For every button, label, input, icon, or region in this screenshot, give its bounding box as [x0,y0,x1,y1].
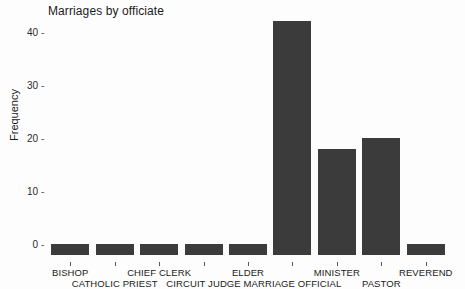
y-axis-tick-mark: - [41,79,45,90]
y-axis-tick-label: 40- [27,26,48,37]
x-axis-tick-mark [204,262,205,266]
x-axis-tick-label: BISHOP [52,267,89,278]
bar [407,244,445,255]
x-axis-tick-label: PASTOR [362,278,401,289]
y-axis-tick-label: 10- [27,185,48,196]
y-axis-tick-label: 30- [27,79,48,90]
x-axis-tick-label: MINISTER [314,267,360,278]
y-axis-tick-label: 20- [27,132,48,143]
y-axis-label: Frequency [8,125,20,141]
bar [185,244,223,255]
x-axis-tick-label: ELDER [232,267,264,278]
bar [51,244,89,255]
x-axis-tick-mark [381,262,382,266]
x-axis-tick-mark [159,262,160,266]
bar [318,149,356,255]
y-axis-tick-mark: - [41,185,45,196]
x-axis-tick-label: REVEREND [399,267,453,278]
bar [140,244,178,255]
bar [362,138,400,255]
bar [96,244,134,255]
bar-chart-figure: Marriages by officiate Frequency 0-10-20… [0,0,465,289]
x-axis-tick-label: CIRCUIT JUDGE [166,278,241,289]
y-axis-tick-mark: - [41,132,45,143]
x-axis-tick-label: MARRIAGE OFFICIAL [244,278,342,289]
x-axis-tick-mark [70,262,71,266]
x-axis: BISHOPCATHOLIC PRIESTCHIEF CLERKCIRCUIT … [48,255,448,289]
x-axis-tick-label: CATHOLIC PRIEST [72,278,158,289]
x-axis-tick-mark [292,262,293,266]
bar [273,21,311,255]
x-axis-tick-mark [115,262,116,266]
x-axis-tick-mark [337,262,338,266]
y-axis-tick-mark: - [41,239,45,250]
x-axis-tick-label: CHIEF CLERK [127,267,191,278]
x-axis-tick-mark [248,262,249,266]
x-axis-tick-mark [426,262,427,266]
plot-area: 0-10-20-30-40- [48,16,448,255]
y-axis-tick-label: 0- [32,239,48,250]
bar [229,244,267,255]
y-axis-tick-mark: - [41,26,45,37]
